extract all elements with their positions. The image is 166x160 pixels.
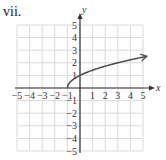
svg-text:−3: −3 [66, 120, 77, 131]
svg-text:−1: −1 [66, 95, 77, 106]
svg-text:−4: −4 [66, 133, 77, 144]
svg-text:x: x [155, 82, 161, 93]
svg-text:5: 5 [141, 90, 146, 101]
svg-text:−5: −5 [12, 90, 23, 101]
svg-text:y: y [81, 4, 87, 15]
svg-text:−2: −2 [49, 90, 60, 101]
svg-text:−2: −2 [66, 108, 77, 119]
svg-text:2: 2 [72, 57, 77, 68]
svg-text:3: 3 [115, 90, 120, 101]
svg-text:−5: −5 [66, 146, 77, 157]
svg-text:4: 4 [72, 32, 77, 43]
svg-text:−3: −3 [37, 90, 48, 101]
axes: xy [15, 4, 161, 153]
svg-text:1: 1 [90, 90, 95, 101]
svg-text:2: 2 [103, 90, 108, 101]
svg-text:4: 4 [128, 90, 133, 101]
svg-text:3: 3 [72, 45, 77, 56]
function-curve [67, 54, 146, 88]
svg-text:5: 5 [72, 20, 77, 31]
svg-text:−4: −4 [24, 90, 35, 101]
graph: xy −5−4−3−2−11234554321−1−2−3−4−5 [0, 0, 166, 160]
